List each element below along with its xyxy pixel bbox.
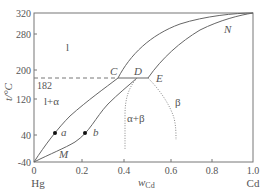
x-axis-title: wCd bbox=[138, 176, 155, 190]
point-C-label: C bbox=[110, 65, 118, 77]
point-b-marker bbox=[83, 131, 87, 135]
point-D-label: D bbox=[133, 65, 142, 77]
ytick-neg40: -40 bbox=[18, 157, 31, 168]
point-a-label: a bbox=[61, 126, 67, 138]
xtick-1-0: 1.0 bbox=[247, 165, 260, 176]
liquidus-curve bbox=[34, 13, 253, 162]
beta-boundary-curve bbox=[148, 13, 253, 78]
xtick-0: 0 bbox=[32, 165, 37, 176]
xtick-0-2: 0.2 bbox=[76, 165, 89, 176]
point-N-label: N bbox=[223, 23, 232, 35]
point-M-label: M bbox=[58, 148, 69, 160]
xtick-0-6: 0.6 bbox=[165, 165, 178, 176]
point-E-label: E bbox=[155, 72, 163, 84]
point-a-marker bbox=[53, 131, 57, 135]
phase-diagram: 320 280 200 120 40 -40 t/°C 0 0.2 0.4 0.… bbox=[0, 0, 263, 196]
region-alpha-beta-label: α+β bbox=[127, 112, 145, 124]
plot-frame bbox=[34, 13, 253, 162]
right-component-label: Cd bbox=[247, 177, 260, 189]
ytick-200: 200 bbox=[16, 65, 31, 76]
region-liquid-label: l bbox=[66, 41, 69, 53]
isotherm-label: 182 bbox=[37, 80, 52, 91]
y-axis-title: t/°C bbox=[2, 82, 14, 101]
point-b-label: b bbox=[93, 126, 99, 138]
ytick-120: 120 bbox=[16, 94, 31, 105]
beta-solvus-dotted bbox=[148, 78, 176, 140]
left-component-label: Hg bbox=[31, 177, 45, 189]
ytick-320: 320 bbox=[16, 8, 31, 19]
ytick-280: 280 bbox=[16, 29, 31, 40]
x-axis-title-sub: Cd bbox=[145, 181, 154, 190]
xtick-0-8: 0.8 bbox=[206, 165, 219, 176]
region-liquid-alpha-label: l+α bbox=[44, 95, 59, 107]
xtick-0-4: 0.4 bbox=[118, 165, 131, 176]
region-beta-label: β bbox=[175, 96, 181, 108]
ytick-40: 40 bbox=[21, 130, 31, 141]
